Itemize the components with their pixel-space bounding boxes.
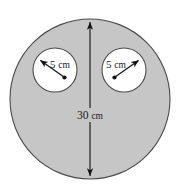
right-radius-unit: cm xyxy=(114,60,126,70)
left-radius-label: 5 cm xyxy=(50,58,70,70)
diameter-number: 30 xyxy=(77,109,89,121)
diameter-unit: cm xyxy=(91,111,103,121)
right-radius-label: 5 cm xyxy=(106,58,126,70)
left-hole-center-dot xyxy=(62,75,66,79)
diameter-label: 30 cm xyxy=(77,109,104,121)
figure-canvas: 5 cm 5 cm 30 cm xyxy=(0,0,180,189)
left-radius-unit: cm xyxy=(58,60,70,70)
right-hole-center-dot xyxy=(112,75,116,79)
geometry-figure: 5 cm 5 cm 30 cm xyxy=(0,0,180,189)
